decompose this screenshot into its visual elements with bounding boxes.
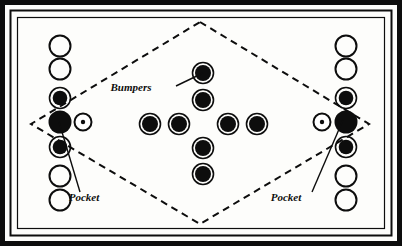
left-ball-pocket[interactable] — [49, 111, 72, 134]
right-ball-ringed — [339, 140, 354, 155]
bumper-upper-mid[interactable] — [195, 92, 211, 108]
bumper-left-inner[interactable] — [171, 116, 187, 132]
cue-ball-right-center-dot — [320, 120, 324, 124]
diagram-canvas: BumpersPocketPocket — [0, 0, 402, 246]
bumper-left-outer[interactable] — [142, 116, 158, 132]
bumper-right-inner[interactable] — [220, 116, 236, 132]
bumper-lower-mid[interactable] — [195, 140, 211, 156]
label-pocket-left: Pocket — [69, 191, 100, 203]
left-ball-ringed — [53, 91, 68, 106]
right-ball-ringed — [339, 91, 354, 106]
pinball-diagram: BumpersPocketPocket — [0, 0, 402, 246]
cue-ball-left-center-dot — [81, 120, 85, 124]
bumper-right-outer[interactable] — [249, 116, 265, 132]
label-bumpers: Bumpers — [110, 81, 152, 93]
label-pocket-right: Pocket — [271, 191, 302, 203]
bumper-bottom[interactable] — [195, 166, 211, 182]
